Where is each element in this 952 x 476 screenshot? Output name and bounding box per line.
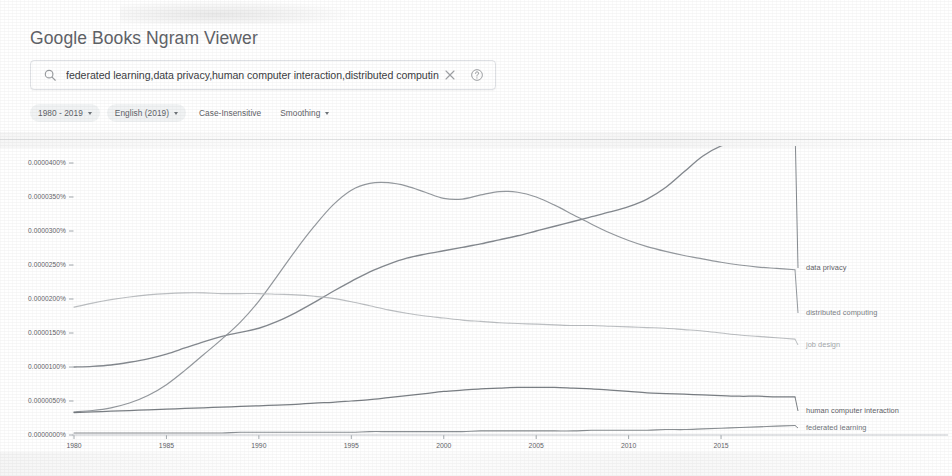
- y-tick-label: 0.0000000%: [28, 431, 66, 438]
- y-tick-label: 0.0000050%: [28, 397, 66, 404]
- series-line: [74, 182, 795, 411]
- corpus-filter-label: English (2019): [115, 108, 169, 118]
- series-leader-line: [795, 339, 798, 345]
- y-tick-label: 0.0000200%: [28, 295, 66, 302]
- y-axis-ticks: 0.0000000%0.0000050%0.0000100%0.0000150%…: [28, 159, 74, 438]
- x-tick-label: 2015: [713, 442, 728, 449]
- y-tick-label: 0.0000150%: [28, 329, 66, 336]
- help-icon[interactable]: [470, 68, 484, 82]
- x-tick-label: 1985: [159, 442, 174, 449]
- series-legend-labels: data privacydistributed computingjob des…: [795, 146, 899, 432]
- ngram-chart[interactable]: 0.0000000%0.0000050%0.0000100%0.0000150%…: [0, 146, 952, 458]
- x-tick-label: 2005: [529, 442, 544, 449]
- chevron-down-icon: [325, 112, 329, 115]
- header-divider: [0, 139, 952, 140]
- x-tick-label: 1995: [344, 442, 359, 449]
- close-icon[interactable]: [444, 69, 456, 81]
- series-leader-line: [795, 426, 798, 429]
- series-leader-line: [795, 146, 798, 268]
- y-tick-label: 0.0000250%: [28, 261, 66, 268]
- y-tick-label: 0.0000400%: [28, 159, 66, 166]
- scan-artifact-top: [120, 0, 360, 24]
- series-legend-label[interactable]: data privacy: [806, 263, 847, 272]
- smoothing-filter[interactable]: Smoothing: [274, 104, 335, 122]
- y-tick-label: 0.0000350%: [28, 193, 66, 200]
- chevron-down-icon: [88, 112, 92, 115]
- chevron-down-icon: [174, 112, 178, 115]
- case-insensitive-filter-label: Case-Insensitive: [199, 108, 261, 118]
- series-leader-line: [795, 397, 798, 411]
- series-legend-label[interactable]: distributed computing: [806, 308, 877, 317]
- series-line: [74, 293, 795, 339]
- series-line: [74, 425, 795, 433]
- search-bar[interactable]: [30, 60, 496, 90]
- chart-canvas: 0.0000000%0.0000050%0.0000100%0.0000150%…: [0, 146, 952, 458]
- series-legend-label[interactable]: job design: [805, 340, 840, 349]
- search-input[interactable]: [66, 69, 444, 81]
- filter-chip-row: 1980 - 2019 English (2019) Case-Insensit…: [30, 104, 335, 122]
- page-title: Google Books Ngram Viewer: [30, 28, 258, 49]
- x-tick-label: 1990: [251, 442, 266, 449]
- series-legend-label[interactable]: human computer interaction: [806, 406, 899, 415]
- date-range-filter-label: 1980 - 2019: [38, 108, 83, 118]
- date-range-filter[interactable]: 1980 - 2019: [30, 104, 100, 122]
- y-tick-label: 0.0000300%: [28, 227, 66, 234]
- search-icon: [43, 68, 57, 82]
- corpus-filter[interactable]: English (2019): [107, 104, 186, 122]
- series-lines: [74, 146, 795, 433]
- x-axis-ticks: 19801985199019952000200520102015: [66, 435, 728, 449]
- series-leader-line: [795, 270, 798, 313]
- x-tick-label: 1980: [66, 442, 81, 449]
- x-tick-label: 2000: [436, 442, 451, 449]
- y-tick-label: 0.0000100%: [28, 363, 66, 370]
- series-legend-label[interactable]: federated learning: [806, 423, 866, 432]
- x-tick-label: 2010: [621, 442, 636, 449]
- smoothing-filter-label: Smoothing: [280, 108, 320, 118]
- case-insensitive-filter[interactable]: Case-Insensitive: [193, 104, 267, 122]
- series-line: [74, 387, 795, 412]
